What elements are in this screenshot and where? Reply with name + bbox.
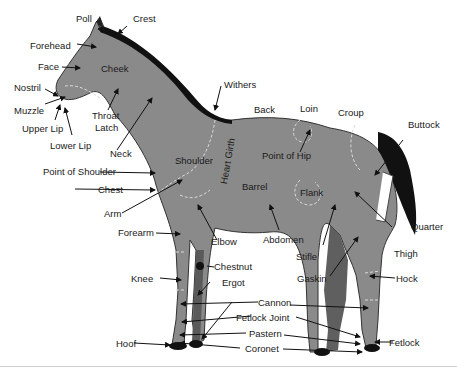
label-throat-latch-line1: Throat bbox=[92, 110, 119, 121]
label-barrel: Barrel bbox=[242, 181, 267, 192]
label-crest: Crest bbox=[133, 13, 156, 24]
label-point-of-shoulder: Point of Shoulder bbox=[43, 166, 116, 177]
label-croup: Croup bbox=[338, 107, 364, 118]
label-cheek: Cheek bbox=[101, 63, 128, 74]
bottom-divider bbox=[0, 366, 457, 367]
label-forehead: Forehead bbox=[30, 40, 71, 51]
label-fetlock-joint: Fetlock Joint bbox=[236, 312, 289, 323]
label-upper-lip: Upper Lip bbox=[22, 123, 63, 134]
label-point-of-hip: Point of Hip bbox=[262, 150, 311, 161]
label-gaskin: Gaskin bbox=[297, 273, 327, 284]
label-shoulder: Shoulder bbox=[175, 155, 213, 166]
label-chest: Chest bbox=[98, 184, 123, 195]
label-knee: Knee bbox=[131, 273, 153, 284]
label-ergot: Ergot bbox=[222, 277, 245, 288]
label-poll: Poll bbox=[76, 13, 92, 24]
label-flank: Flank bbox=[300, 187, 323, 198]
label-throat-latch-line2: Latch bbox=[95, 122, 118, 133]
label-coronet: Coronet bbox=[245, 343, 279, 354]
label-thigh: Thigh bbox=[394, 248, 418, 259]
label-hock: Hock bbox=[396, 273, 418, 284]
label-loin: Loin bbox=[300, 103, 318, 114]
label-cannon: Cannon bbox=[258, 297, 291, 308]
label-muzzle: Muzzle bbox=[14, 105, 44, 116]
label-back: Back bbox=[254, 104, 275, 115]
label-fetlock: Fetlock bbox=[389, 337, 420, 348]
label-forearm: Forearm bbox=[118, 227, 154, 238]
label-chestnut: Chestnut bbox=[214, 261, 252, 272]
label-withers: Withers bbox=[224, 79, 256, 90]
label-arm: Arm bbox=[104, 208, 121, 219]
label-neck: Neck bbox=[110, 148, 132, 159]
label-hoof: Hoof bbox=[116, 338, 136, 349]
label-buttock: Buttock bbox=[408, 119, 440, 130]
label-nostril: Nostril bbox=[14, 82, 41, 93]
label-abdomen: Abdomen bbox=[263, 234, 304, 245]
label-elbow: Elbow bbox=[211, 236, 237, 247]
label-lower-lip: Lower Lip bbox=[50, 140, 91, 151]
label-face: Face bbox=[38, 61, 59, 72]
label-pastern: Pastern bbox=[249, 328, 282, 339]
label-quarter: Quarter bbox=[411, 221, 443, 232]
horse-anatomy-diagram: Poll Crest Forehead Face Cheek Nostril M… bbox=[0, 0, 457, 370]
chestnut-mark bbox=[196, 262, 204, 270]
label-stifle: Stifle bbox=[296, 251, 317, 262]
